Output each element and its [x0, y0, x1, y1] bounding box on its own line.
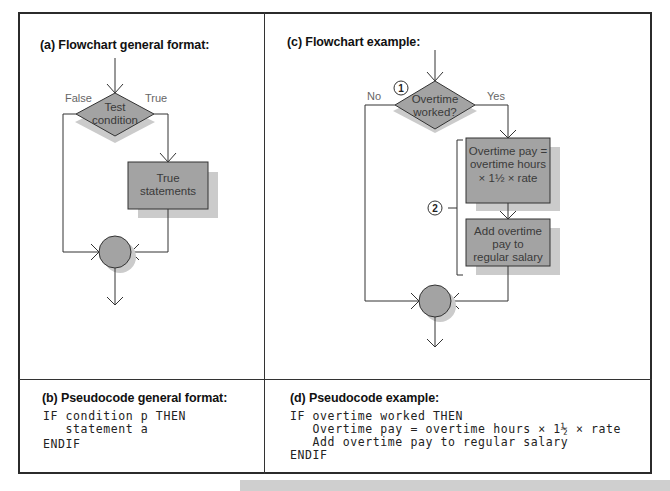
no-label: No — [367, 90, 381, 102]
process-text: pay to — [492, 238, 523, 250]
process-text: statements — [140, 185, 196, 197]
process-text: × 1½ × rate — [479, 172, 538, 184]
connector-circle — [99, 236, 131, 268]
yes-label: Yes — [487, 90, 505, 102]
process-text: overtime hours — [470, 158, 546, 170]
true-label: True — [145, 92, 167, 104]
flowchart-example — [365, 50, 560, 347]
false-label: False — [65, 92, 92, 104]
process-text: regular salary — [473, 251, 543, 263]
process-text: Overtime pay = — [469, 145, 548, 157]
decision-text: Test — [104, 101, 126, 113]
process-text: Add overtime — [474, 225, 542, 237]
step-marker-1-label: 1 — [398, 83, 404, 94]
bracket — [457, 140, 463, 275]
connector-circle — [419, 285, 451, 317]
step-marker-2-label: 2 — [432, 203, 438, 214]
process-text: True — [156, 172, 179, 184]
decision-text: Overtime — [412, 93, 459, 105]
decision-text: condition — [92, 114, 138, 126]
decision-text: worked? — [412, 106, 456, 118]
flowcharts-canvas: False True Test condition True statement… — [0, 0, 670, 491]
